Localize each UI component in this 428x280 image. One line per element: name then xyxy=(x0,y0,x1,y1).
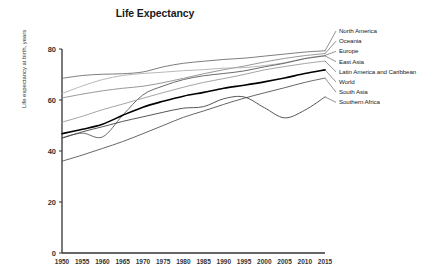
x-tick-label: 1950 xyxy=(55,258,70,265)
y-tick-label: 20 xyxy=(48,198,56,207)
series-line-oceania xyxy=(62,54,325,98)
series-line-east-asia xyxy=(62,56,325,138)
x-tick-group: 1950195519601965197019751980198519901995… xyxy=(55,258,333,265)
x-tick-label: 1975 xyxy=(156,258,171,265)
series-label-southern-africa: Southern Africa xyxy=(339,99,380,105)
x-tick-label: 1990 xyxy=(217,258,232,265)
series-label-world: World xyxy=(339,79,355,85)
x-tick-label: 1970 xyxy=(136,258,151,265)
series-label-europe: Europe xyxy=(339,48,358,54)
y-tick-label: 60 xyxy=(48,96,56,105)
life-expectancy-chart: Life Expectancy Life expectancy at birth… xyxy=(0,0,428,280)
x-tick-label: 1995 xyxy=(237,258,252,265)
y-tick-label: 80 xyxy=(48,45,56,54)
series-label-latin-america-and-caribbean: Latin America and Caribbean xyxy=(339,69,416,75)
x-tick-label: 1955 xyxy=(75,258,90,265)
x-tick-label: 2010 xyxy=(298,258,313,265)
leader-line xyxy=(325,97,336,103)
x-tick-label: 1980 xyxy=(176,258,191,265)
series-group xyxy=(62,51,325,161)
series-label-oceania: Oceania xyxy=(339,38,361,44)
series-label-east-asia: East Asia xyxy=(339,59,364,65)
x-tick-label: 1965 xyxy=(115,258,130,265)
leader-line-group xyxy=(325,31,336,102)
x-tick-label: 2005 xyxy=(277,258,292,265)
y-tick-group: 020406080 xyxy=(48,45,62,258)
x-tick-label: 2000 xyxy=(257,258,272,265)
x-tick-label: 1985 xyxy=(196,258,211,265)
leader-line xyxy=(325,56,336,62)
x-tick-label: 2015 xyxy=(318,258,333,265)
y-tick-label: 0 xyxy=(52,249,56,258)
plot-area: 020406080 195019551960196519701975198019… xyxy=(0,0,428,280)
x-tick-label: 1960 xyxy=(95,258,110,265)
leader-line xyxy=(325,61,336,72)
series-line-north-america xyxy=(62,51,325,79)
series-label-north-america: North America xyxy=(339,28,377,34)
series-line-southern-africa xyxy=(62,96,325,138)
y-tick-label: 40 xyxy=(48,147,56,156)
series-label-south-asia: South Asia xyxy=(339,89,368,95)
